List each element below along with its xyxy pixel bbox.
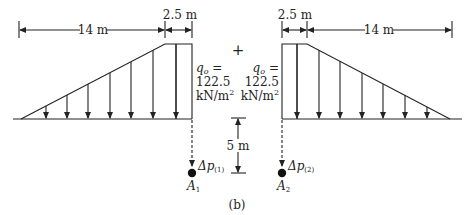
point-a2-marker <box>278 169 286 177</box>
point-a1-label: A1 <box>186 179 200 194</box>
depth-dimension: 5 m <box>227 118 250 173</box>
right-q-unit: kN/m2 <box>241 88 279 103</box>
right-flat-width-label: 2.5 m <box>278 8 313 22</box>
right-q-label: qo = <box>253 61 279 76</box>
right-ramp-length-label: 14 m <box>364 23 395 37</box>
left-q-label: qo = <box>196 61 222 76</box>
left-load-diagram: 14 m 2.5 m qo = 122.5 kN/m2 Δp(1) A1 <box>13 8 234 194</box>
right-q-value: 122.5 <box>245 75 279 89</box>
right-stress-label: Δp(2) <box>287 159 315 174</box>
left-flat-width-label: 2.5 m <box>163 8 198 22</box>
right-load-diagram: 14 m 2.5 m qo = 122.5 kN/m2 Δp(2) A2 <box>241 8 462 194</box>
point-a2-label: A2 <box>276 179 290 194</box>
depth-label: 5 m <box>227 139 250 153</box>
plus-operator: + <box>232 41 245 59</box>
point-a1-marker <box>188 169 196 177</box>
left-q-unit: kN/m2 <box>196 88 234 103</box>
left-ramp-length-label: 14 m <box>78 23 109 37</box>
left-q-value: 122.5 <box>196 75 230 89</box>
left-stress-label: Δp(1) <box>197 159 225 174</box>
right-load-outline <box>282 44 450 119</box>
figure-label: (b) <box>228 198 245 212</box>
load-diagram: 14 m 2.5 m qo = 122.5 kN/m2 Δp(1) A1 + 5… <box>0 0 472 215</box>
right-load-arrows <box>297 44 427 118</box>
left-load-outline <box>21 44 192 119</box>
left-load-arrows <box>46 44 176 118</box>
